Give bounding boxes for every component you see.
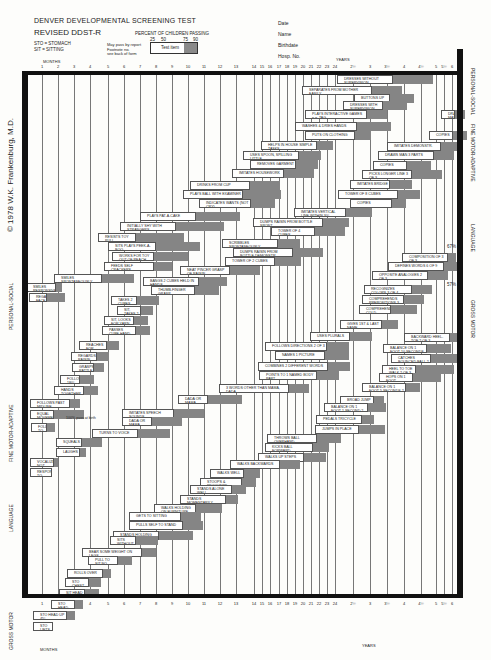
note-67: 67% <box>447 244 456 249</box>
pass-range-shade <box>56 283 62 292</box>
legend-test-item: Test item <box>150 42 198 54</box>
test-item-label: COPIES <box>350 199 392 208</box>
pass-range-shade <box>327 342 349 351</box>
field-date[interactable]: Date <box>278 18 300 29</box>
test-item-label: WASHES & DRIES HANDS <box>295 122 357 131</box>
test-item-label: FEEDS SELF CRACKERS <box>104 262 154 271</box>
pass-range-shade <box>367 110 387 119</box>
test-item-label: 3 WORDS OTHER THAN MAMA, DADA <box>219 384 289 393</box>
test-item-label: SCRIBBLES SPONTANEOUSLY <box>222 239 278 248</box>
pass-range-shade <box>176 222 224 231</box>
test-item-label: THUMB-FINGER GRASP <box>151 286 195 295</box>
age-tick: 18 <box>285 601 289 606</box>
age-tick: 9 <box>171 601 173 606</box>
right-section-personal-social: PERSONAL-SOCIAL <box>470 68 476 115</box>
test-item-label: DRESSES WITHOUT SUPERVISION <box>337 75 393 84</box>
pass-range-shade <box>296 160 318 169</box>
pass-range-shade <box>141 306 153 315</box>
pass-range-shade <box>80 375 94 384</box>
patient-fields: Date Name Birthdate Hosp. No. <box>278 18 300 62</box>
age-tick: 5 <box>107 601 109 606</box>
pass-range-shade <box>230 266 260 275</box>
pass-range-shade <box>196 212 240 221</box>
note-57: 57% <box>447 282 456 287</box>
pass-range-shade <box>392 199 406 208</box>
age-tick: 16 <box>268 64 272 69</box>
age-tick: 4 <box>89 64 91 69</box>
test-item-label: VOCALIZES NOT CRYING <box>30 458 54 467</box>
test-item-label: REACHES FOR OBJECT <box>79 341 107 350</box>
age-gridline <box>90 75 91 594</box>
test-item-label: CATCHES BOUNCED BALL 2 OF 3 <box>391 354 431 363</box>
pass-range-shade <box>393 75 433 84</box>
pass-range-shade <box>97 352 109 361</box>
field-name[interactable]: Name <box>278 29 300 40</box>
frame-bottom-bar <box>22 594 463 598</box>
pass-range-shade <box>89 578 101 587</box>
age-tick: 14 <box>252 64 256 69</box>
age-tick: 10 <box>186 64 190 69</box>
abbrev-stomach: STO = STOMACH <box>34 41 71 47</box>
age-gridline <box>42 75 43 594</box>
pass-range-shade <box>275 257 301 266</box>
pass-range-shade <box>199 277 227 286</box>
field-birthdate[interactable]: Birthdate <box>278 40 300 51</box>
pass-range-shade <box>138 429 170 438</box>
test-item-label: TOWER OF 2 CUBES <box>225 257 275 266</box>
pass-range-shade <box>244 469 260 478</box>
pass-range-shade <box>183 521 203 530</box>
legend-notes: May pass by report Footnote no. see back… <box>107 43 141 57</box>
pass-range-shade <box>293 248 323 257</box>
years-label-top: YEARS <box>336 57 350 62</box>
test-item-label: DADA OR MAMA SPECIFIC <box>178 395 208 404</box>
pass-range-shade <box>357 122 391 131</box>
age-tick: 11 <box>202 601 206 606</box>
pass-range-shade <box>413 373 441 382</box>
test-item-label: FOLLOWS 180° <box>60 375 80 384</box>
test-item-label: SQUEALS <box>56 438 82 447</box>
pass-range-shade <box>284 169 314 178</box>
pass-range-shade <box>251 199 275 208</box>
pass-range-shade <box>412 285 432 294</box>
age-tick: 4½ <box>418 64 424 69</box>
test-item-label: JUMPS IN PLACE <box>315 425 359 434</box>
pass-range-shade <box>412 170 442 179</box>
test-item-label: TAKES 2 CUBES <box>111 296 137 305</box>
pass-range-shade <box>243 190 281 199</box>
test-item-label: IMITATES BRIDGE <box>350 180 390 189</box>
pass-range-shade <box>313 443 329 452</box>
test-item-label: NEAT PINCER GRASP OF RAISIN <box>180 266 230 275</box>
age-tick: 19 <box>293 601 297 606</box>
age-gridline <box>220 75 221 594</box>
pass-range-shade <box>278 239 300 248</box>
test-item-label: PULLS SELF TO STAND <box>129 521 183 530</box>
test-item-label: TOWER OF 4 CUBES <box>271 227 315 236</box>
test-item-label: IMITATES DEMONSTR. <box>387 142 441 151</box>
field-hosp-no[interactable]: Hosp. No. <box>278 51 300 62</box>
pass-range-shade <box>70 399 80 408</box>
test-item-label: SITS PLAYS PEEK-A-BOO <box>108 242 156 251</box>
test-item-label: PLAYS INTERACTIVE GAMES e.g. TAG <box>305 110 367 119</box>
test-item-label: COPIES <box>373 161 407 170</box>
age-tick: 12 <box>218 601 222 606</box>
pass-range-shade <box>362 415 374 424</box>
age-gridline <box>236 75 237 594</box>
age-tick: 8 <box>155 601 157 606</box>
test-item-label: DUMPS RAISIN FROM BOTTLE SPONT. <box>253 218 323 227</box>
frame-left-bar <box>22 71 28 598</box>
age-tick: 17 <box>277 601 281 606</box>
test-item-label: STO HEAD UP 90° <box>51 600 75 609</box>
test-item-label: NAMES 1 PICTURE <box>275 351 325 360</box>
test-item-label: STO CHEST UP ARM SUPPORT <box>65 578 89 587</box>
test-item-label: FOLLOWS TO MIDLINE <box>31 423 47 432</box>
test-item-label: HOPS ON 1 FOOT <box>379 373 413 382</box>
age-tick: 13 <box>234 601 238 606</box>
pass-range-shade <box>226 495 238 504</box>
age-gridline <box>74 75 75 594</box>
test-item-label: BALANCE ON 1 FOOT 1 SECOND 2 OF 3 <box>324 403 368 412</box>
age-tick: 17 <box>277 64 281 69</box>
pass-range-shade <box>289 384 309 393</box>
test-item-label: IMITATES VERTICAL LINE WITHIN 30° <box>294 208 346 217</box>
pass-range-shade <box>118 556 132 565</box>
age-tick: 12 <box>218 64 222 69</box>
